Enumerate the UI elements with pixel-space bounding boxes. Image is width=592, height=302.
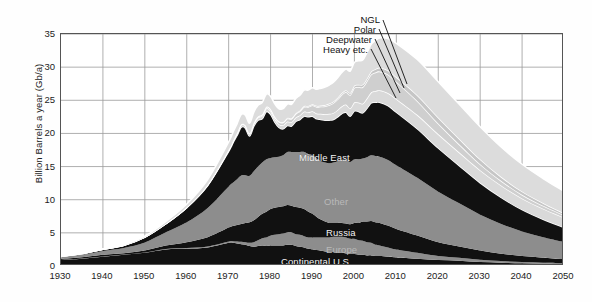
y-tick-35: 35 [29, 28, 55, 39]
y-axis-tick-labels: 05101520253035 [27, 0, 55, 302]
x-tick-1940: 1940 [80, 270, 124, 281]
stacked-area-plot [61, 34, 563, 265]
y-tick-15: 15 [29, 160, 55, 171]
y-tick-10: 10 [29, 193, 55, 204]
oil-production-chart: Billion Barrels a year (Gb/a) 0510152025… [0, 0, 592, 302]
y-tick-25: 25 [29, 94, 55, 105]
y-tick-30: 30 [29, 61, 55, 72]
x-tick-1970: 1970 [206, 270, 250, 281]
x-tick-2000: 2000 [331, 270, 375, 281]
x-tick-2020: 2020 [415, 270, 459, 281]
y-tick-0: 0 [29, 260, 55, 271]
x-tick-2040: 2040 [499, 270, 543, 281]
plot-area: Middle East Other Russia Europe Continen… [60, 33, 563, 265]
x-tick-2050: 2050 [541, 270, 585, 281]
x-tick-2010: 2010 [373, 270, 417, 281]
x-tick-2030: 2030 [457, 270, 501, 281]
y-tick-5: 5 [29, 226, 55, 237]
x-tick-1990: 1990 [290, 270, 334, 281]
x-axis-tick-labels: 1930194019501960197019801990200020102020… [0, 270, 592, 288]
x-tick-1980: 1980 [248, 270, 292, 281]
x-tick-1950: 1950 [122, 270, 166, 281]
y-tick-20: 20 [29, 127, 55, 138]
callout-label-ngl: NGL [258, 14, 380, 25]
x-tick-1960: 1960 [164, 270, 208, 281]
x-tick-1930: 1930 [38, 270, 82, 281]
